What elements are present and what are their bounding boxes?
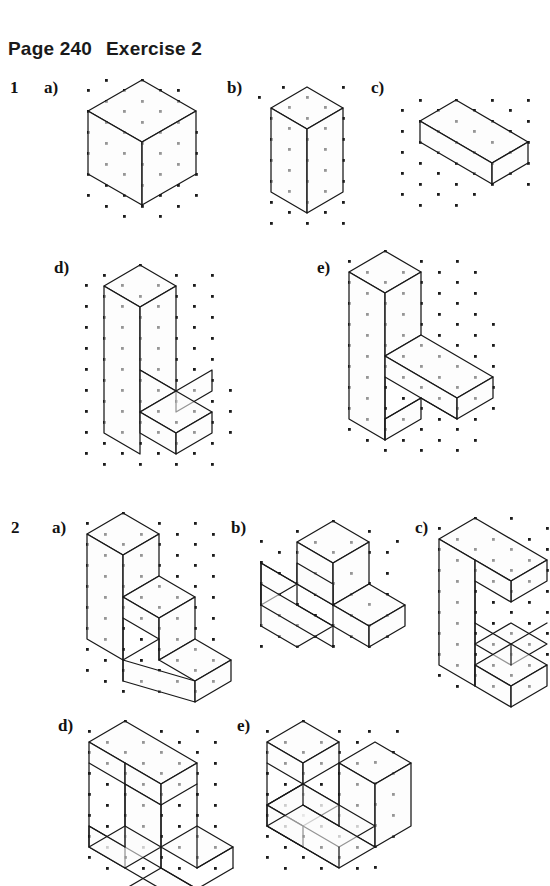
item-label-1d: d)	[54, 258, 69, 278]
item-label-2b: b)	[231, 518, 246, 538]
figure-2d	[80, 716, 230, 886]
page-title: Page 240Exercise 2	[8, 38, 202, 60]
figure-1c	[395, 88, 550, 233]
item-label-2e: e)	[237, 716, 250, 736]
exercise-label: Exercise 2	[106, 38, 202, 59]
item-label-1b: b)	[227, 78, 242, 98]
figure-1e	[340, 248, 515, 488]
figure-1d	[78, 260, 243, 490]
solid-double-step-notched	[349, 251, 493, 440]
figure-1a	[75, 80, 235, 235]
item-label-2d: d)	[58, 716, 73, 736]
solid-i-beam	[89, 721, 233, 886]
solid-l-shaped-step	[104, 265, 212, 454]
figure-2e	[258, 718, 413, 883]
item-label-1a: a)	[44, 78, 58, 98]
figure-2c	[432, 512, 550, 707]
figure-2b	[252, 518, 417, 673]
cutoff-figure-right	[285, 0, 425, 12]
solid-twin-block	[267, 721, 411, 868]
figure-1b	[250, 80, 380, 235]
solid-tall-rectangular-prism	[271, 87, 343, 213]
question-number-2: 2	[11, 518, 20, 538]
solid-three-step-staircase	[87, 513, 231, 702]
solid-c-shaped-bracket	[439, 518, 547, 707]
figure-2a	[78, 512, 228, 707]
page-number-label: Page 240	[8, 38, 92, 59]
question-number-1: 1	[10, 78, 19, 98]
solid-t-shaped	[261, 521, 405, 647]
item-label-1c: c)	[371, 78, 384, 98]
item-label-2c: c)	[415, 518, 428, 538]
cutoff-figure-left	[60, 0, 190, 12]
item-label-1e: e)	[317, 258, 330, 278]
solid-flat-wide-box	[420, 100, 528, 184]
item-label-2a: a)	[52, 518, 66, 538]
